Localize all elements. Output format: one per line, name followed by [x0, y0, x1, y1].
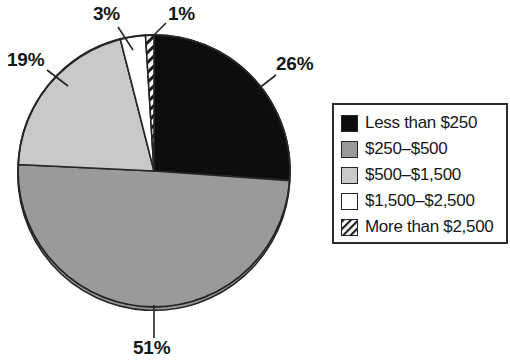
chart-legend: Less than $250 $250–$500 $500–$1,500 $1,…	[332, 103, 508, 244]
leader-line-26	[258, 75, 276, 89]
pie-label-3-percent: 3%	[93, 3, 120, 25]
pie-label-26-percent: 26%	[276, 53, 313, 75]
legend-item-more-than-2500: More than $2,500	[341, 214, 506, 240]
legend-item-less-than-250: Less than $250	[341, 110, 506, 136]
black-solid-swatch-icon	[341, 115, 358, 132]
legend-label-less-than-250: Less than $250	[365, 113, 477, 133]
medium-gray-solid-swatch-icon	[341, 141, 358, 158]
pie-label-1-percent: 1%	[168, 3, 195, 25]
diagonal-hatch-swatch-icon	[341, 219, 358, 236]
light-gray-solid-swatch-icon	[341, 167, 358, 184]
white-solid-swatch-icon	[341, 193, 358, 210]
legend-item-1500-2500: $1,500–$2,500	[341, 188, 506, 214]
pie-label-19-percent: 19%	[7, 49, 44, 71]
legend-label-more-than-2500: More than $2,500	[365, 217, 493, 237]
legend-label-1500-2500: $1,500–$2,500	[365, 191, 475, 211]
legend-item-500-1500: $500–$1,500	[341, 162, 506, 188]
legend-label-250-500: $250–$500	[365, 139, 447, 159]
legend-item-250-500: $250–$500	[341, 136, 506, 162]
pie-slice-less-than-250	[154, 35, 290, 181]
hatch-fill-icon	[342, 220, 357, 235]
legend-label-500-1500: $500–$1,500	[365, 165, 461, 185]
pie-label-51-percent: 51%	[133, 337, 170, 359]
pie-slice-250-500	[18, 165, 290, 311]
